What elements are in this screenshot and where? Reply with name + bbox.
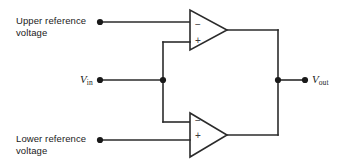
vout-label: Vout — [312, 73, 329, 85]
lower-comparator-inverting-sign: − — [195, 116, 201, 126]
upper-reference-voltage-line1: Upper reference — [16, 15, 86, 26]
upper-comparator-noninverting-sign: + — [195, 36, 201, 46]
lower-reference-voltage-label: Lower referencevoltage — [16, 133, 86, 156]
vin-label: Vin — [80, 73, 93, 85]
upper-reference-voltage-line2: voltage — [16, 27, 47, 38]
lower-comparator-noninverting-sign: + — [195, 131, 201, 141]
vout-terminal-dot — [302, 77, 308, 83]
lower-reference-terminal-dot — [97, 137, 103, 143]
vin-junction-dot — [160, 77, 166, 83]
lower-reference-voltage-line1: Lower reference — [16, 133, 86, 144]
vin-label-subscript: in — [87, 78, 93, 87]
upper-reference-voltage-label: Upper referencevoltage — [16, 15, 86, 38]
circuit-diagram: Upper referencevoltage Lower referencevo… — [0, 0, 343, 165]
upper-reference-terminal-dot — [97, 19, 103, 25]
vout-label-subscript: out — [319, 78, 329, 87]
vout-junction-dot — [275, 77, 281, 83]
vin-label-main: V — [80, 73, 87, 85]
lower-reference-voltage-line2: voltage — [16, 145, 47, 156]
upper-comparator-inverting-sign: − — [195, 20, 201, 30]
vin-terminal-dot — [97, 77, 103, 83]
vout-label-main: V — [312, 73, 319, 85]
